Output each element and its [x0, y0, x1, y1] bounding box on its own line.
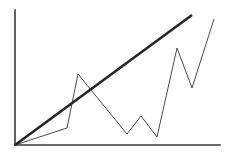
chart-container: [0, 0, 231, 156]
line-chart: [0, 0, 231, 156]
chart-background: [0, 0, 231, 156]
